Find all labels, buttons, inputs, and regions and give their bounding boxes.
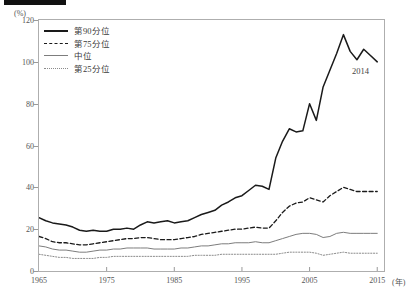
series-line-中位: [39, 232, 377, 252]
x-axis-tick-label: 1975: [99, 276, 115, 285]
y-axis-tick-mark: [33, 271, 38, 272]
legend-item-p90: 第90分位: [44, 24, 149, 37]
legend-item-median: 中位: [44, 49, 149, 62]
y-axis-tick-mark: [33, 146, 38, 147]
y-axis-tick-mark: [33, 229, 38, 230]
y-axis-tick-label: 0: [4, 267, 34, 276]
legend-label-p90: 第90分位: [74, 24, 110, 36]
y-axis-tick-mark: [33, 187, 38, 188]
x-axis-tick-label: 2015: [369, 276, 385, 285]
figure-label-tag: [4, 0, 66, 5]
legend-label-median: 中位: [74, 49, 92, 61]
x-axis-tick-label: 1985: [166, 276, 182, 285]
x-axis-tick-label: 2005: [302, 276, 318, 285]
legend-label-p75: 第75分位: [74, 37, 110, 49]
legend-item-p75: 第75分位: [44, 37, 149, 50]
legend-item-p25: 第25分位: [44, 62, 149, 75]
legend-swatch-p25-icon: [44, 63, 68, 73]
y-axis-tick-mark: [33, 62, 38, 63]
y-axis-tick-mark: [33, 20, 38, 21]
legend-swatch-p75-icon: [44, 38, 68, 48]
y-axis-tick-label: 120: [4, 16, 34, 25]
y-axis-tick-label: 100: [4, 57, 34, 66]
y-axis-tick-label: 20: [4, 225, 34, 234]
y-axis-tick-label: 80: [4, 99, 34, 108]
series-line-第75分位: [39, 187, 377, 245]
legend-swatch-p90-icon: [44, 25, 68, 35]
annotation-2014: 2014: [352, 66, 369, 76]
y-axis-tick-label: 60: [4, 141, 34, 150]
header-strip: [0, 0, 419, 7]
y-axis-tick-mark: [33, 104, 38, 105]
y-axis-tick-label: 40: [4, 183, 34, 192]
x-axis-tick-label: 1965: [31, 276, 47, 285]
legend-label-p25: 第25分位: [74, 62, 110, 74]
x-axis-tick-label: 1995: [234, 276, 250, 285]
series-line-第25分位: [39, 252, 377, 258]
chart-legend: 第90分位 第75分位 中位 第25分位: [44, 24, 149, 74]
legend-swatch-median-icon: [44, 50, 68, 60]
x-axis-unit-label: (年): [392, 276, 405, 287]
